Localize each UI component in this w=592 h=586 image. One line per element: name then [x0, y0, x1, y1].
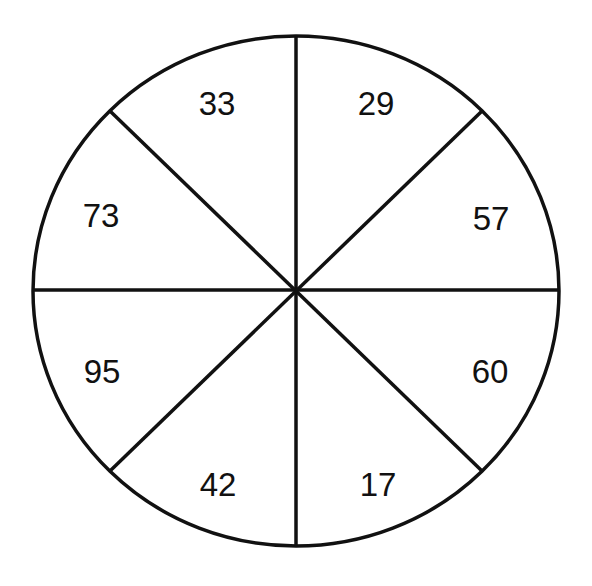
- sector-value-bottom-left: 42: [200, 466, 237, 503]
- sector-value-top-right: 29: [358, 85, 395, 122]
- sector-value-left-upper: 73: [83, 197, 120, 234]
- sector-value-left-lower: 95: [84, 353, 121, 390]
- sector-value-top-left: 33: [199, 85, 236, 122]
- sector-value-right-upper: 57: [473, 200, 510, 237]
- sector-wheel: 33 29 57 60 17 42 95 73: [0, 0, 592, 586]
- sector-value-right-lower: 60: [472, 353, 509, 390]
- sector-value-bottom-right: 17: [360, 466, 397, 503]
